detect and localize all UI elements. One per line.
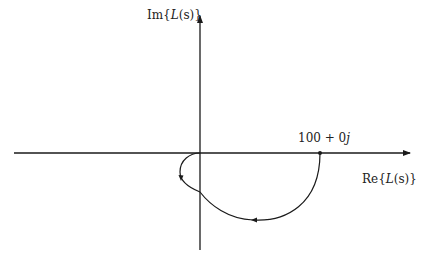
imag-axis-label: Im{L(s)} <box>147 8 202 22</box>
start-point-marker <box>318 151 322 155</box>
curve-arrow-icon <box>251 218 257 223</box>
nyquist-diagram <box>0 0 427 263</box>
nyquist-curve-loop <box>180 153 200 192</box>
start-point-label: 100 + 0j <box>298 131 350 145</box>
real-axis-label: Re{L(s)} <box>362 172 417 186</box>
nyquist-curve-main <box>200 153 320 220</box>
